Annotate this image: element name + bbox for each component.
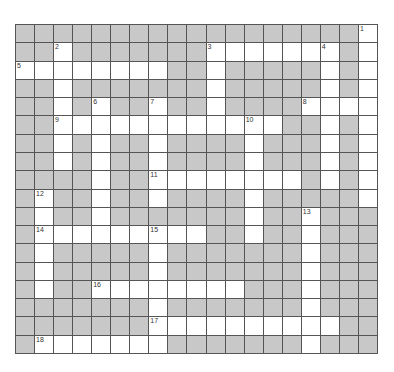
crossword-cell[interactable] — [111, 336, 129, 353]
crossword-cell[interactable] — [245, 171, 263, 188]
crossword-cell[interactable] — [187, 317, 205, 334]
crossword-cell[interactable]: 7 — [149, 98, 167, 115]
crossword-cell[interactable] — [359, 43, 377, 60]
crossword-cell[interactable] — [264, 317, 282, 334]
crossword-cell[interactable] — [359, 135, 377, 152]
crossword-cell[interactable] — [245, 43, 263, 60]
crossword-cell[interactable] — [245, 190, 263, 207]
crossword-cell[interactable] — [321, 317, 339, 334]
crossword-cell[interactable] — [340, 98, 358, 115]
crossword-cell[interactable]: 14 — [35, 226, 53, 243]
crossword-cell[interactable] — [92, 116, 110, 133]
crossword-cell[interactable] — [149, 299, 167, 316]
crossword-cell[interactable] — [54, 226, 72, 243]
crossword-cell[interactable] — [168, 116, 186, 133]
crossword-cell[interactable] — [321, 98, 339, 115]
crossword-cell[interactable] — [226, 281, 244, 298]
crossword-cell[interactable] — [207, 98, 225, 115]
crossword-cell[interactable] — [73, 116, 91, 133]
crossword-cell[interactable] — [54, 98, 72, 115]
crossword-cell[interactable] — [149, 62, 167, 79]
crossword-cell[interactable] — [245, 153, 263, 170]
crossword-cell[interactable] — [302, 336, 320, 353]
crossword-cell[interactable] — [245, 317, 263, 334]
crossword-cell[interactable] — [283, 171, 301, 188]
crossword-cell[interactable] — [359, 116, 377, 133]
crossword-cell[interactable]: 8 — [302, 98, 320, 115]
crossword-cell[interactable] — [207, 317, 225, 334]
crossword-cell[interactable] — [226, 171, 244, 188]
crossword-cell[interactable] — [302, 226, 320, 243]
crossword-cell[interactable] — [226, 317, 244, 334]
crossword-cell[interactable]: 3 — [207, 43, 225, 60]
crossword-cell[interactable] — [35, 244, 53, 261]
crossword-cell[interactable] — [149, 263, 167, 280]
crossword-cell[interactable] — [321, 153, 339, 170]
crossword-cell[interactable] — [168, 171, 186, 188]
crossword-cell[interactable] — [264, 171, 282, 188]
crossword-cell[interactable] — [73, 62, 91, 79]
crossword-cell[interactable] — [92, 135, 110, 152]
crossword-cell[interactable] — [321, 171, 339, 188]
crossword-cell[interactable] — [302, 317, 320, 334]
crossword-cell[interactable] — [149, 153, 167, 170]
crossword-cell[interactable] — [321, 135, 339, 152]
crossword-cell[interactable]: 15 — [149, 226, 167, 243]
crossword-cell[interactable] — [302, 299, 320, 316]
crossword-cell[interactable] — [359, 80, 377, 97]
crossword-cell[interactable] — [35, 208, 53, 225]
crossword-cell[interactable] — [92, 171, 110, 188]
crossword-cell[interactable] — [111, 281, 129, 298]
crossword-cell[interactable] — [283, 43, 301, 60]
crossword-cell[interactable] — [130, 226, 148, 243]
crossword-cell[interactable] — [226, 116, 244, 133]
crossword-cell[interactable] — [149, 336, 167, 353]
crossword-cell[interactable]: 2 — [54, 43, 72, 60]
crossword-cell[interactable] — [264, 116, 282, 133]
crossword-cell[interactable] — [187, 226, 205, 243]
crossword-cell[interactable] — [207, 80, 225, 97]
crossword-cell[interactable] — [321, 80, 339, 97]
crossword-cell[interactable] — [149, 135, 167, 152]
crossword-cell[interactable]: 10 — [245, 116, 263, 133]
crossword-cell[interactable] — [54, 336, 72, 353]
crossword-cell[interactable] — [321, 116, 339, 133]
crossword-cell[interactable] — [149, 244, 167, 261]
crossword-cell[interactable] — [207, 281, 225, 298]
crossword-cell[interactable] — [35, 62, 53, 79]
crossword-cell[interactable]: 17 — [149, 317, 167, 334]
crossword-cell[interactable] — [149, 190, 167, 207]
crossword-cell[interactable] — [54, 135, 72, 152]
crossword-cell[interactable] — [168, 226, 186, 243]
crossword-cell[interactable] — [245, 226, 263, 243]
crossword-cell[interactable] — [35, 281, 53, 298]
crossword-cell[interactable]: 4 — [321, 43, 339, 60]
crossword-cell[interactable]: 1 — [359, 25, 377, 42]
crossword-cell[interactable] — [149, 116, 167, 133]
crossword-cell[interactable] — [54, 80, 72, 97]
crossword-cell[interactable] — [111, 226, 129, 243]
crossword-cell[interactable] — [92, 208, 110, 225]
crossword-cell[interactable] — [168, 281, 186, 298]
crossword-cell[interactable] — [302, 244, 320, 261]
crossword-cell[interactable] — [187, 116, 205, 133]
crossword-cell[interactable] — [54, 153, 72, 170]
crossword-cell[interactable] — [226, 43, 244, 60]
crossword-cell[interactable] — [130, 336, 148, 353]
crossword-cell[interactable] — [359, 98, 377, 115]
crossword-cell[interactable]: 12 — [35, 190, 53, 207]
crossword-cell[interactable]: 18 — [35, 336, 53, 353]
crossword-cell[interactable] — [111, 62, 129, 79]
crossword-cell[interactable] — [168, 317, 186, 334]
crossword-cell[interactable] — [54, 62, 72, 79]
crossword-cell[interactable] — [92, 153, 110, 170]
crossword-cell[interactable]: 5 — [16, 62, 34, 79]
crossword-cell[interactable] — [187, 171, 205, 188]
crossword-cell[interactable] — [92, 336, 110, 353]
crossword-cell[interactable] — [207, 116, 225, 133]
crossword-cell[interactable]: 6 — [92, 98, 110, 115]
crossword-cell[interactable] — [302, 43, 320, 60]
crossword-cell[interactable] — [321, 62, 339, 79]
crossword-cell[interactable] — [359, 171, 377, 188]
crossword-cell[interactable] — [92, 62, 110, 79]
